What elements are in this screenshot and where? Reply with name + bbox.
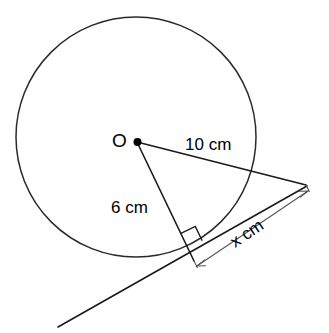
dimension-extension-left (194, 261, 198, 268)
center-point-dot (134, 138, 142, 146)
hypotenuse-label: 10 cm (185, 135, 231, 154)
tangent-label: x cm (227, 216, 267, 252)
radius-label: 6 cm (111, 198, 148, 217)
center-label: O (112, 130, 127, 151)
geometry-figure: O 10 cm 6 cm x cm (0, 0, 329, 333)
dimension-arrow-left (197, 260, 206, 266)
geometry-diagram: O 10 cm 6 cm x cm (0, 0, 329, 333)
tangent-line (58, 186, 307, 327)
dimension-arrow-right (299, 191, 308, 197)
